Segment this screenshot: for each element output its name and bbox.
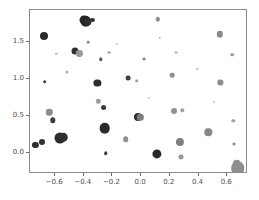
x-tick-label: 0.2 bbox=[163, 179, 174, 186]
scatter-point bbox=[148, 96, 150, 98]
scatter-point bbox=[76, 50, 82, 56]
scatter-point bbox=[196, 68, 198, 70]
scatter-point bbox=[99, 123, 110, 134]
scatter-point bbox=[232, 119, 235, 122]
y-tick-mark bbox=[26, 115, 29, 116]
x-tick-mark bbox=[140, 173, 141, 176]
scatter-point bbox=[137, 114, 143, 120]
scatter-point bbox=[170, 73, 175, 78]
scatter-point bbox=[156, 17, 160, 21]
y-tick-label: 0.5 bbox=[13, 111, 24, 118]
x-tick-mark bbox=[54, 173, 55, 176]
scatter-point bbox=[55, 52, 57, 54]
x-tick-label: −0.2 bbox=[103, 179, 120, 186]
scatter-point bbox=[176, 138, 184, 146]
y-tick-label: 1.0 bbox=[13, 74, 24, 81]
x-tick-label: 0.4 bbox=[192, 179, 203, 186]
scatter-point bbox=[65, 71, 68, 74]
scatter-point bbox=[32, 142, 38, 148]
scatter-point bbox=[40, 32, 48, 40]
scatter-point bbox=[217, 31, 223, 37]
x-tick-label: 0.0 bbox=[135, 179, 146, 186]
scatter-point bbox=[123, 136, 129, 142]
y-tick-mark bbox=[26, 41, 29, 42]
scatter-point bbox=[50, 118, 55, 123]
scatter-plot-area bbox=[30, 10, 246, 172]
scatter-point bbox=[232, 142, 235, 145]
y-tick-mark bbox=[26, 152, 29, 153]
x-tick-mark bbox=[169, 173, 170, 176]
scatter-point bbox=[87, 41, 90, 44]
x-tick-mark bbox=[198, 173, 199, 176]
scatter-point bbox=[46, 109, 52, 115]
scatter-point bbox=[116, 43, 118, 45]
scatter-point bbox=[43, 80, 47, 84]
scatter-point bbox=[153, 150, 162, 159]
scatter-point bbox=[39, 139, 45, 145]
y-tick-label: 1.5 bbox=[13, 37, 24, 44]
x-tick-label: −0.6 bbox=[46, 179, 63, 186]
scatter-point bbox=[181, 108, 184, 111]
scatter-point bbox=[135, 79, 139, 83]
scatter-point bbox=[96, 99, 100, 103]
scatter-point bbox=[94, 80, 101, 87]
scatter-point bbox=[107, 51, 110, 54]
scatter-point bbox=[59, 133, 68, 142]
x-tick-mark bbox=[83, 173, 84, 176]
scatter-point bbox=[99, 58, 102, 61]
scatter-plot-figure: −0.6−0.4−0.20.00.20.40.6 0.00.51.01.5 bbox=[0, 0, 259, 200]
plot-axes-frame bbox=[29, 9, 247, 173]
scatter-point bbox=[104, 151, 108, 155]
x-tick-label: −0.4 bbox=[74, 179, 91, 186]
x-tick-mark bbox=[226, 173, 227, 176]
scatter-point bbox=[101, 105, 107, 111]
scatter-point bbox=[205, 128, 212, 135]
scatter-point bbox=[231, 162, 245, 172]
scatter-point bbox=[126, 75, 131, 80]
scatter-point bbox=[158, 36, 161, 39]
x-tick-label: 0.6 bbox=[221, 179, 232, 186]
y-tick-mark bbox=[26, 78, 29, 79]
x-tick-mark bbox=[111, 173, 112, 176]
scatter-point bbox=[212, 101, 214, 103]
scatter-point bbox=[179, 155, 184, 160]
scatter-point bbox=[218, 80, 223, 85]
scatter-point bbox=[90, 18, 94, 22]
scatter-point bbox=[143, 57, 146, 60]
scatter-point bbox=[171, 108, 177, 114]
scatter-point bbox=[230, 53, 234, 57]
y-tick-label: 0.0 bbox=[13, 149, 24, 156]
scatter-point bbox=[174, 51, 177, 54]
